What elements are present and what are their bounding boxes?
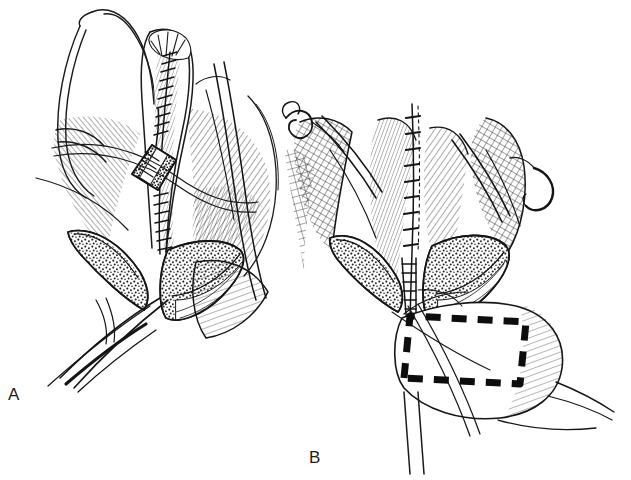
surgical-illustration-artwork bbox=[0, 0, 631, 480]
panel-label-b: B bbox=[309, 449, 321, 466]
panel-label-a: A bbox=[8, 386, 20, 403]
figure-root: A B bbox=[0, 0, 631, 480]
